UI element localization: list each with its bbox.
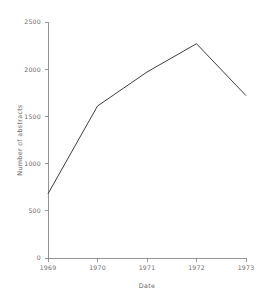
- x-tick-label-1971: 1971: [139, 264, 156, 271]
- y-tick-label-1500: 1500: [24, 113, 41, 120]
- y-axis-title: Number of abstracts: [16, 104, 24, 176]
- x-tick-label-1972: 1972: [188, 264, 205, 271]
- line-chart: 0 500 1000 1500 2000 2500 1969 1970 1971…: [0, 0, 263, 298]
- y-tick-label-0: 0: [37, 254, 41, 261]
- y-tick-label-500: 500: [28, 207, 41, 214]
- x-tick-label-1973: 1973: [238, 264, 255, 271]
- chart-background: [0, 0, 263, 298]
- x-axis-title: Date: [139, 282, 155, 290]
- x-tick-label-1969: 1969: [40, 264, 57, 271]
- y-tick-label-2500: 2500: [24, 18, 41, 25]
- y-tick-label-2000: 2000: [24, 66, 41, 73]
- x-tick-label-1970: 1970: [89, 264, 106, 271]
- y-tick-label-1000: 1000: [24, 160, 41, 167]
- chart-figure: 0 500 1000 1500 2000 2500 1969 1970 1971…: [0, 0, 263, 298]
